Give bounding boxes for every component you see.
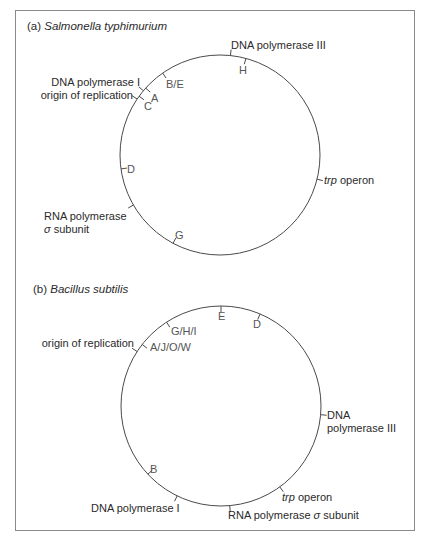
label-b-dna-polymerase-iii: DNApolymerase III: [327, 409, 396, 435]
marker-a-D: D: [127, 163, 135, 175]
panel-a-title: (a) Salmonella typhimurium: [27, 20, 167, 32]
marker-a-G: G: [175, 229, 184, 241]
label-a-dna-polymerase-iii: DNA polymerase III: [231, 39, 326, 52]
tick-a-rna-pol-sigma: [128, 205, 133, 208]
label-a-rna-polymerase-sigma: RNA polymeraseσ subunit: [44, 210, 127, 236]
marker-b-G-H-I: G/H/I: [171, 325, 197, 337]
label-a-dna-polymerase-i: DNA polymerase I: [36, 76, 140, 89]
marker-a-B-E: B/E: [166, 78, 184, 90]
chromosome-circle-a: [120, 55, 320, 255]
tick-b-dna-pol-i: [175, 496, 178, 501]
tick-a-A: [146, 88, 150, 92]
marker-b-D: D: [253, 318, 261, 330]
tick-b-G-H-I: [167, 322, 170, 327]
marker-b-A-J-O-W: A/J/O/W: [150, 341, 191, 353]
label-a-origin-of-replication: origin of replication: [20, 89, 133, 102]
label-b-trp-operon: trp operon: [282, 491, 332, 504]
tick-a-trp-operon: [317, 179, 323, 180]
marker-a-A: A: [151, 92, 158, 104]
tick-b-A-J-O-W: [142, 344, 147, 348]
label-b-rna-polymerase-sigma: RNA polymerase σ subunit: [228, 509, 359, 522]
chromosome-circle-b: [121, 306, 321, 506]
label-a-trp-operon: trp operon: [324, 174, 374, 187]
tick-b-dna-pol-iii: [321, 415, 327, 416]
marker-a-H: H: [239, 64, 247, 76]
label-b-dna-polymerase-i: DNA polymerase I: [91, 502, 180, 515]
marker-b-E: E: [218, 310, 225, 322]
panel-b-title: (b) Bacillus subtilis: [33, 283, 128, 295]
label-b-origin-of-replication: origin of replication: [20, 337, 134, 350]
marker-a-C: C: [144, 100, 152, 112]
marker-b-B: B: [150, 463, 157, 475]
